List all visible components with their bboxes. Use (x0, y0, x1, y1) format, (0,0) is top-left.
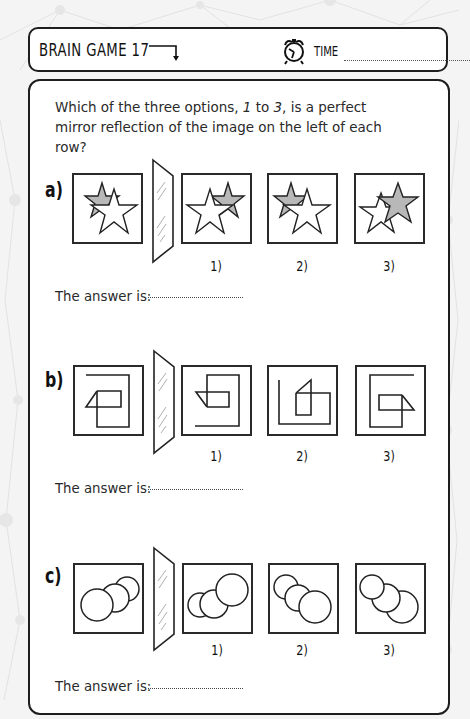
circles-icon (270, 565, 337, 632)
time-input[interactable] (344, 60, 470, 61)
answer-label-c: The answer is: (55, 678, 151, 694)
source-image-c (73, 563, 144, 634)
answer-input-c[interactable] (148, 688, 243, 689)
line-figure-icon (183, 367, 250, 434)
line-figure-icon (75, 367, 142, 434)
option-c-3[interactable] (355, 563, 426, 634)
answer-label-a: The answer is: (55, 288, 151, 304)
source-image-b (73, 365, 144, 436)
option-b-1[interactable] (181, 365, 252, 436)
option-label-b-2: 2) (286, 448, 318, 464)
option-label-a-1: 1) (200, 258, 232, 274)
option-c-1[interactable] (182, 563, 253, 634)
answer-input-b[interactable] (148, 489, 243, 490)
instructions-text: Which of the three options, 1 to 3, is a… (55, 97, 399, 157)
stars-icon (356, 175, 423, 242)
option-a-1[interactable] (181, 173, 252, 244)
option-label-a-2: 2) (286, 258, 318, 274)
mirror-icon (151, 546, 177, 652)
line-figure-icon (357, 367, 424, 434)
line-figure-icon (269, 367, 336, 434)
option-label-c-2: 2) (286, 642, 318, 658)
stars-icon (183, 175, 250, 242)
stars-icon (269, 175, 336, 242)
option-a-3[interactable] (354, 173, 425, 244)
time-label: TIME (314, 43, 338, 59)
arrow-right-down-icon (148, 43, 184, 63)
circles-icon (184, 565, 251, 632)
row-label-c: c) (45, 564, 62, 588)
answer-label-b: The answer is: (55, 480, 151, 496)
circles-icon (357, 565, 424, 632)
option-label-c-1: 1) (201, 642, 233, 658)
option-label-b-1: 1) (200, 448, 232, 464)
option-label-a-3: 3) (373, 258, 405, 274)
option-label-c-3: 3) (373, 642, 405, 658)
page-title: BRAIN GAME 17 (39, 40, 149, 60)
option-a-2[interactable] (267, 173, 338, 244)
mirror-icon (151, 349, 177, 455)
option-b-2[interactable] (267, 365, 338, 436)
row-label-a: a) (45, 178, 63, 202)
mirror-icon (150, 158, 176, 264)
source-image-a (72, 173, 143, 244)
option-label-b-3: 3) (373, 448, 405, 464)
stars-icon (74, 175, 141, 242)
answer-input-a[interactable] (148, 297, 243, 298)
row-label-b: b) (45, 368, 63, 392)
option-b-3[interactable] (355, 365, 426, 436)
option-c-2[interactable] (268, 563, 339, 634)
alarm-clock-icon (281, 37, 307, 65)
circles-icon (75, 565, 142, 632)
header-bar: BRAIN GAME 17 TIME (28, 27, 448, 72)
